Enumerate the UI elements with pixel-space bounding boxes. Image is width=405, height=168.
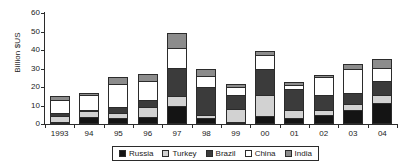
legend-swatch-brazil-icon <box>206 150 213 157</box>
y-tick-label: 0 <box>0 120 40 128</box>
x-tick-mark <box>368 124 369 128</box>
bar-segment-russia <box>79 117 99 124</box>
bar-segment-china <box>314 77 334 96</box>
bar-segment-china <box>138 81 158 100</box>
bar-segment-china <box>343 69 363 94</box>
bar-segment-russia <box>167 106 187 125</box>
x-tick-mark <box>280 124 281 128</box>
bar-segment-china <box>255 55 275 69</box>
bar-segment-brazil <box>372 81 392 96</box>
bar-segment-russia <box>138 117 158 124</box>
bar-segment-russia <box>343 110 363 124</box>
y-tick-label: 40 <box>0 46 40 54</box>
bar-segment-brazil <box>255 69 275 96</box>
bar-00 <box>255 51 275 124</box>
y-tick-label: 20 <box>0 83 40 91</box>
bar-segment-turkey <box>138 107 158 116</box>
bar-segment-brazil <box>226 95 246 109</box>
legend-item-russia[interactable]: Russia <box>119 150 153 158</box>
legend-swatch-russia-icon <box>119 150 126 157</box>
bar-segment-brazil <box>284 89 304 110</box>
bar-segment-russia <box>314 115 334 124</box>
y-tick-label: 30 <box>0 65 40 73</box>
legend-item-china[interactable]: China <box>245 150 276 158</box>
bar-96 <box>138 74 158 124</box>
plot-area: 0102030405060 <box>45 13 397 124</box>
bar-segment-russia <box>372 103 392 124</box>
bar-segment-russia <box>284 118 304 124</box>
y-tick-label: 60 <box>0 9 40 17</box>
bar-97 <box>167 33 187 124</box>
legend-label: Russia <box>129 150 153 158</box>
legend-item-india[interactable]: India <box>285 150 312 158</box>
x-tick-mark <box>309 124 310 128</box>
bar-segment-china <box>50 100 70 113</box>
bar-98 <box>196 69 216 124</box>
bar-segment-brazil <box>167 68 187 97</box>
legend-label: Brazil <box>216 150 236 158</box>
bar-04 <box>372 59 392 124</box>
legend-label: India <box>295 150 312 158</box>
bar-segment-brazil <box>343 93 363 103</box>
bar-segment-turkey <box>284 110 304 118</box>
stacked-bar-chart: Billion $US 0102030405060 19939495969798… <box>0 0 405 168</box>
legend-swatch-china-icon <box>245 150 252 157</box>
x-tick-mark <box>45 124 46 128</box>
x-tick-mark <box>250 124 251 128</box>
x-tick-mark <box>133 124 134 128</box>
legend-item-turkey[interactable]: Turkey <box>162 150 196 158</box>
legend-label: China <box>255 150 276 158</box>
bar-segment-brazil <box>314 95 334 110</box>
bar-03 <box>343 64 363 124</box>
bar-segment-turkey <box>372 95 392 102</box>
bar-group <box>45 13 397 124</box>
bar-95 <box>108 77 128 124</box>
legend-label: Turkey <box>172 150 196 158</box>
legend-item-brazil[interactable]: Brazil <box>206 150 236 158</box>
y-tick-label: 50 <box>0 28 40 36</box>
bar-1993 <box>50 96 70 124</box>
x-tick-mark <box>74 124 75 128</box>
legend-swatch-india-icon <box>285 150 292 157</box>
bar-segment-russia <box>226 122 246 124</box>
x-tick-mark <box>162 124 163 128</box>
x-tick-mark <box>221 124 222 128</box>
bar-94 <box>79 93 99 125</box>
bar-segment-china <box>196 76 216 87</box>
bar-01 <box>284 82 304 124</box>
bar-segment-brazil <box>138 100 158 107</box>
bar-segment-india <box>372 59 392 67</box>
x-tick-mark <box>104 124 105 128</box>
bar-segment-russia <box>108 118 128 124</box>
bar-segment-china <box>372 68 392 81</box>
bar-segment-china <box>108 84 128 107</box>
bar-segment-russia <box>255 116 275 124</box>
bar-02 <box>314 75 334 124</box>
bar-segment-brazil <box>196 87 216 115</box>
bar-99 <box>226 84 246 124</box>
bar-segment-turkey <box>226 109 246 122</box>
x-tick-mark <box>338 124 339 128</box>
bar-segment-china <box>167 48 187 67</box>
x-tick-mark <box>397 124 398 128</box>
bar-segment-india <box>108 77 128 84</box>
bar-segment-china <box>79 95 99 110</box>
bar-segment-turkey <box>167 96 187 105</box>
bar-segment-russia <box>50 122 70 124</box>
y-tick-label: 10 <box>0 102 40 110</box>
bar-segment-russia <box>196 118 216 124</box>
bar-segment-china <box>226 87 246 95</box>
bar-segment-turkey <box>255 95 275 115</box>
legend-swatch-turkey-icon <box>162 150 169 157</box>
x-tick-mark <box>192 124 193 128</box>
x-tick-label: 04 <box>362 129 402 138</box>
bar-segment-india <box>167 33 187 48</box>
chart-legend: RussiaTurkeyBrazilChinaIndia <box>112 146 319 161</box>
